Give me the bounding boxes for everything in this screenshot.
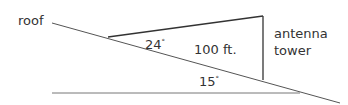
distance-label: 100 ft.: [194, 42, 237, 57]
roof-antenna-diagram: roof antenna tower 100 ft. 24° 15°: [0, 0, 348, 105]
sight-line: [108, 16, 263, 37]
angle-15-label: 15°: [199, 74, 219, 89]
roof-label: roof: [18, 13, 44, 28]
antenna-label-line2: tower: [274, 43, 312, 58]
antenna-label-line1: antenna: [274, 26, 328, 41]
angle-24-label: 24°: [145, 37, 165, 52]
